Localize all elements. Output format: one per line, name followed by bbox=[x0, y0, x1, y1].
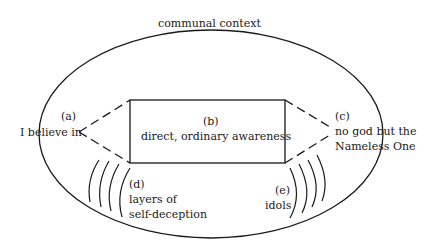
node-b-text: direct, ordinary awareness bbox=[141, 130, 291, 143]
node-e-tag: (e) bbox=[275, 184, 290, 197]
node-d-line1: layers of bbox=[129, 193, 177, 206]
node-d-line2: self-deception bbox=[129, 208, 207, 221]
node-a-text: I believe in bbox=[20, 126, 82, 139]
communal-context-label: communal context bbox=[158, 17, 261, 30]
idols-arcs bbox=[290, 155, 325, 218]
node-c-line2: Nameless One bbox=[335, 140, 416, 153]
dashed-connectors-left bbox=[79, 100, 130, 163]
node-c-line1: no god but the bbox=[335, 125, 416, 138]
dashed-connectors-right bbox=[285, 100, 330, 163]
node-b-tag: (b) bbox=[203, 115, 219, 128]
node-c-tag: (c) bbox=[335, 110, 350, 123]
node-d-tag: (d) bbox=[129, 178, 145, 191]
node-a-tag: (a) bbox=[61, 110, 76, 123]
node-e-text: idols bbox=[265, 199, 291, 212]
self-deception-arcs bbox=[89, 160, 130, 217]
